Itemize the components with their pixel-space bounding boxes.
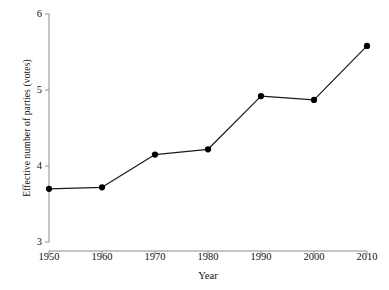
data-point-1980 bbox=[205, 146, 211, 152]
chart-canvas bbox=[0, 0, 389, 290]
axes bbox=[49, 14, 367, 251]
chart-figure: Effective number of parties (votes) 3456… bbox=[0, 0, 389, 290]
data-point-1950 bbox=[46, 186, 52, 192]
data-line bbox=[49, 46, 367, 189]
data-point-1970 bbox=[152, 151, 158, 157]
data-markers bbox=[46, 43, 370, 192]
data-point-2010 bbox=[364, 43, 370, 49]
data-point-1990 bbox=[258, 93, 264, 99]
data-point-2000 bbox=[311, 97, 317, 103]
data-point-1960 bbox=[99, 184, 105, 190]
tick-marks bbox=[45, 14, 367, 255]
